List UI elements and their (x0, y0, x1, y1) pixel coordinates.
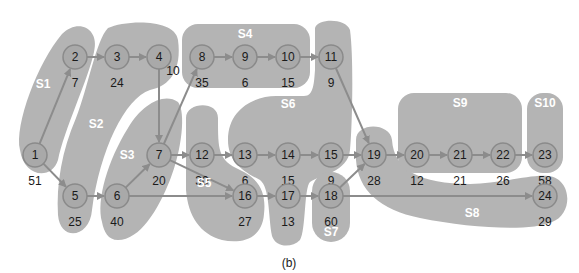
node-weight-label: 13 (281, 215, 295, 229)
node-id-label: 15 (324, 148, 338, 162)
node-id-label: 5 (72, 189, 79, 203)
diagram-svg: 1512732441052564072083596101511912301361… (0, 0, 579, 273)
node-id-label: 11 (325, 50, 338, 64)
group-label-s4: S4 (238, 27, 253, 41)
node-id-label: 13 (238, 148, 252, 162)
node-weight-label: 20 (152, 174, 166, 188)
node-id-label: 4 (156, 50, 163, 64)
node-id-label: 23 (538, 148, 552, 162)
node-id-label: 1 (32, 148, 39, 162)
node-id-label: 19 (367, 148, 381, 162)
node-id-label: 2 (72, 50, 79, 64)
node-id-label: 3 (114, 50, 121, 64)
group-label-s9: S9 (453, 96, 468, 110)
figure-caption: (b) (282, 256, 297, 270)
node-id-label: 7 (156, 148, 163, 162)
node-weight-label: 12 (410, 174, 424, 188)
node-id-label: 8 (199, 50, 206, 64)
node-id-label: 22 (496, 148, 510, 162)
node-weight-label: 29 (538, 215, 552, 229)
group-label-s1: S1 (36, 77, 51, 91)
node-id-label: 9 (242, 50, 249, 64)
group-label-s5: S5 (197, 176, 212, 190)
node-id-label: 18 (324, 189, 338, 203)
node-weight-label: 28 (367, 174, 381, 188)
node-id-label: 17 (281, 189, 295, 203)
group-label-s10: S10 (534, 96, 556, 110)
decomposition-diagram: 1512732441052564072083596101511912301361… (0, 0, 579, 273)
node-weight-label: 21 (453, 174, 467, 188)
node-id-label: 14 (281, 148, 295, 162)
group-label-s3: S3 (120, 148, 135, 162)
node-weight-label: 7 (72, 76, 79, 90)
node-weight-label: 40 (110, 215, 124, 229)
group-label-s8: S8 (465, 206, 480, 220)
node-weight-label: 27 (238, 215, 252, 229)
group-label-s2: S2 (89, 117, 104, 131)
node-id-label: 20 (410, 148, 424, 162)
node-id-label: 24 (538, 189, 552, 203)
node-weight-label: 24 (110, 76, 124, 90)
node-id-label: 12 (195, 148, 209, 162)
node-weight-label: 15 (281, 76, 295, 90)
node-weight-label: 9 (328, 76, 335, 90)
node-id-label: 16 (238, 189, 252, 203)
node-weight-label: 51 (28, 174, 42, 188)
node-id-label: 10 (281, 50, 295, 64)
node-id-label: 21 (453, 148, 467, 162)
node-id-label: 6 (114, 189, 121, 203)
group-label-s6: S6 (281, 97, 296, 111)
node-weight-label: 25 (68, 215, 82, 229)
node-weight-label: 10 (166, 64, 180, 78)
node-weight-label: 35 (195, 76, 209, 90)
node-weight-label: 6 (242, 76, 249, 90)
node-weight-label: 26 (496, 174, 510, 188)
group-label-s7: S7 (324, 225, 339, 239)
